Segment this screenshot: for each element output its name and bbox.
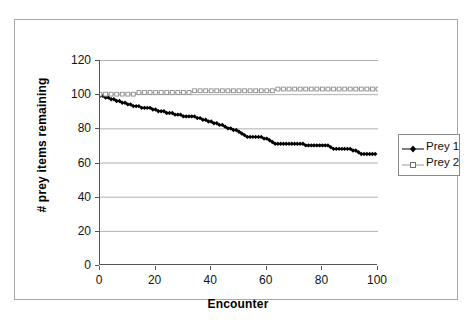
x-axis-tick-label: 0	[79, 274, 119, 286]
x-axis-tick-label: 100	[357, 274, 397, 286]
chart-screenshot: 020406080100120020406080100 Encounter # …	[0, 0, 473, 324]
y-axis-tick-mark	[95, 94, 99, 95]
y-axis-tick-mark	[95, 128, 99, 129]
chart-object-frame[interactable]: 020406080100120020406080100 Encounter # …	[14, 19, 458, 300]
x-axis-title: Encounter	[99, 297, 377, 311]
x-axis-tick-label: 60	[246, 274, 286, 286]
x-axis-tick-label: 80	[301, 274, 341, 286]
legend-marker-open-square-icon	[402, 157, 424, 169]
y-axis-tick-label: 120	[47, 54, 91, 66]
chart-legend[interactable]: Prey 1 Prey 2	[398, 134, 460, 176]
legend-label-prey-2: Prey 2	[426, 157, 459, 169]
y-axis-tick-mark	[95, 163, 99, 164]
x-axis-tick-mark	[155, 266, 156, 270]
y-axis-tick-label: 40	[47, 191, 91, 203]
y-axis-tick-mark	[95, 60, 99, 61]
y-axis-tick-label: 0	[47, 259, 91, 271]
x-axis-tick-mark	[321, 266, 322, 270]
x-axis-tick-label: 40	[190, 274, 230, 286]
x-axis-tick-mark	[266, 266, 267, 270]
x-axis-tick-mark	[210, 266, 211, 270]
legend-label-prey-1: Prey 1	[426, 141, 459, 153]
x-axis-tick-mark	[99, 266, 100, 270]
legend-item-prey-2[interactable]: Prey 2	[402, 155, 456, 171]
legend-marker-filled-diamond-icon	[402, 141, 424, 153]
y-axis-tick-mark	[95, 197, 99, 198]
y-axis-tick-label: 100	[47, 88, 91, 100]
legend-item-prey-1[interactable]: Prey 1	[402, 139, 456, 155]
x-axis-tick-mark	[377, 266, 378, 270]
y-axis-tick-label: 60	[47, 157, 91, 169]
y-axis-title: # prey items remaining	[35, 60, 49, 230]
y-axis-tick-label: 80	[47, 122, 91, 134]
x-axis-tick-label: 20	[135, 274, 175, 286]
y-axis-tick-label: 20	[47, 225, 91, 237]
y-axis-tick-mark	[95, 231, 99, 232]
